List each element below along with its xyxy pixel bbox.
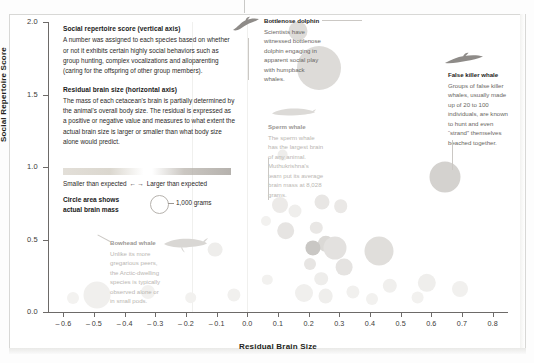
- leader-false-killer-whale: [452, 140, 453, 170]
- leader-bottlenose-dolphin: [322, 20, 362, 21]
- bubble-bowhead-whale: [84, 281, 111, 308]
- x-tick: [217, 312, 218, 317]
- bubble-false-killer-whale: [430, 162, 461, 193]
- x-tick-label: 0.8: [477, 319, 509, 328]
- horizontal-axis-body: The mass of each cetacean's brain is par…: [63, 96, 235, 147]
- bubble-species-w: [227, 288, 240, 301]
- bubble-species-t: [418, 274, 436, 292]
- bubble-species-q: [318, 289, 333, 304]
- annotation-bottlenose-dolphin: Bottlenose dolphin Scientists have witne…: [264, 16, 322, 84]
- annotation-bowhead-whale-body: Unlike its more gregarious peers, the Ar…: [110, 250, 160, 305]
- gradient-arrow-icon: ← →: [127, 180, 147, 187]
- y-tick-label: 0.0: [12, 307, 38, 316]
- page-right-edge: [520, 14, 525, 348]
- residual-gradient-bar: [63, 168, 231, 175]
- x-tick: [155, 312, 156, 317]
- annotation-false-killer-whale: False killer whale Groups of false kille…: [448, 70, 510, 147]
- bubble-species-s: [383, 279, 397, 293]
- x-tick-label: 0.4: [354, 319, 386, 328]
- y-axis-label: Social Repertoire Score: [0, 47, 8, 142]
- x-tick-label: 0.3: [323, 319, 355, 328]
- dolphin-silhouette: [232, 16, 260, 32]
- x-tick-label: 0.6: [415, 319, 447, 328]
- bubble-species-r: [347, 285, 360, 298]
- figure-root: 0.00.51.01.52.0 – 0.6– 0.5– 0.4– 0.3– 0.…: [0, 0, 534, 363]
- size-legend-connector: [168, 203, 174, 204]
- false-killer-whale-silhouette: [444, 52, 484, 68]
- bubble-species-v: [411, 291, 424, 304]
- y-tick-label: 1.5: [12, 90, 38, 99]
- vertical-axis-heading: Social repertoire score (vertical axis): [63, 24, 235, 34]
- horizontal-axis-heading: Residual brain size (horizontal axis): [63, 85, 235, 95]
- x-tick-label: – 0.5: [78, 319, 110, 328]
- bowhead-whale-silhouette: [162, 236, 208, 254]
- x-tick: [339, 312, 340, 317]
- x-tick: [401, 312, 402, 317]
- x-tick: [309, 312, 310, 317]
- y-tick: [43, 240, 48, 241]
- leader-bottlenose-dolphin-drop: [248, 38, 249, 80]
- x-tick-label: – 0.3: [139, 319, 171, 328]
- size-legend-value: 1,000 grams: [176, 199, 212, 206]
- bubble-species-a: [272, 197, 288, 213]
- page-top-nub: [244, 0, 245, 13]
- annotation-bowhead-whale-title: Bowhead whale: [110, 238, 162, 248]
- bubble-species-z: [67, 292, 79, 304]
- x-tick-label: 0.7: [446, 319, 478, 328]
- annotation-sperm-whale: Sperm whale The sperm whale has the larg…: [268, 122, 324, 199]
- leader-sperm-whale: [268, 158, 269, 200]
- y-tick: [43, 167, 48, 168]
- x-tick: [370, 312, 371, 317]
- x-tick: [186, 312, 187, 317]
- bubble-species-n: [336, 259, 353, 276]
- bubble-species-b: [288, 204, 301, 217]
- y-tick-label: 1.0: [12, 162, 38, 171]
- gradient-left-label: Smaller than expected: [63, 180, 127, 187]
- x-tick: [94, 312, 95, 317]
- y-tick: [43, 312, 48, 313]
- x-tick: [493, 312, 494, 317]
- bubble-species-f: [277, 222, 295, 240]
- x-tick: [462, 312, 463, 317]
- gradient-caption: Smaller than expected← →Larger than expe…: [63, 180, 243, 187]
- bubble-species-m: [304, 258, 316, 270]
- bubble-species-d: [334, 199, 348, 213]
- sperm-whale-silhouette: [270, 106, 316, 120]
- annotation-false-killer-whale-body: Groups of false killer whales, usually m…: [448, 82, 508, 146]
- x-tick: [247, 312, 248, 317]
- x-axis-label: Residual Brain Size: [48, 342, 508, 351]
- annotation-sperm-whale-body: The sperm whale has the largest brain of…: [268, 134, 323, 198]
- x-tick-label: 0.0: [231, 319, 263, 328]
- x-tick: [125, 312, 126, 317]
- x-tick-label: 0.1: [262, 319, 294, 328]
- bubble-species-j: [323, 237, 346, 260]
- y-tick-label: 0.5: [12, 235, 38, 244]
- x-tick-label: 0.5: [385, 319, 417, 328]
- bubble-species-e: [261, 216, 271, 226]
- bubble-species-p: [295, 284, 313, 302]
- y-tick: [43, 95, 48, 96]
- bubble-species-i: [306, 241, 321, 256]
- y-tick-label: 2.0: [12, 17, 38, 26]
- x-tick: [63, 312, 64, 317]
- bubble-species-u: [452, 281, 468, 297]
- bubble-species-k: [365, 237, 394, 266]
- vertical-axis-body: A number was assigned to each species ba…: [63, 35, 235, 75]
- gradient-right-label: Larger than expected: [147, 180, 207, 187]
- x-tick-label: – 0.2: [170, 319, 202, 328]
- x-tick-label: – 0.1: [201, 319, 233, 328]
- bubble-species-l: [208, 242, 223, 257]
- annotation-sperm-whale-title: Sperm whale: [268, 122, 324, 132]
- methodology-description: Social repertoire score (vertical axis) …: [63, 24, 235, 156]
- x-tick-label: – 0.6: [47, 319, 79, 328]
- x-tick: [431, 312, 432, 317]
- x-tick-label: – 0.4: [109, 319, 141, 328]
- annotation-bowhead-whale: Bowhead whale Unlike its more gregarious…: [110, 238, 162, 306]
- bubble-species-ab: [366, 293, 378, 305]
- annotation-bottlenose-dolphin-body: Scientists have witnessed bottlenose dol…: [264, 28, 321, 83]
- annotation-bottlenose-dolphin-title: Bottlenose dolphin: [264, 16, 322, 26]
- bubble-species-o: [314, 272, 328, 286]
- size-legend-title-line1: Circle area shows: [63, 196, 119, 203]
- x-tick: [278, 312, 279, 317]
- bubble-species-aa: [262, 275, 272, 285]
